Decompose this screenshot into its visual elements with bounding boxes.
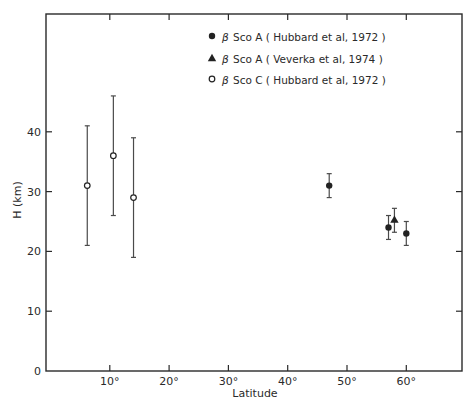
series bbox=[326, 174, 409, 246]
y-tick-label: 40 bbox=[27, 126, 41, 139]
filled-circle-marker bbox=[385, 224, 391, 230]
data-point bbox=[131, 138, 137, 258]
legend-label: Sco C ( Hubbard et al, 1972 ) bbox=[233, 74, 386, 86]
filled-triangle-marker bbox=[390, 216, 398, 223]
y-tick-label: 0 bbox=[34, 365, 41, 378]
x-tick-label: 50° bbox=[337, 375, 357, 388]
x-tick-label: 20° bbox=[159, 375, 179, 388]
y-axis-label: H (km) bbox=[11, 181, 24, 218]
filled-circle-marker bbox=[326, 182, 332, 188]
open-circle-marker bbox=[111, 153, 117, 159]
x-tick-label: 60° bbox=[397, 375, 417, 388]
latitude-height-chart: 10°20°30°40°50°60°010203040 Latitude H (… bbox=[0, 0, 474, 408]
open-circle-marker bbox=[131, 195, 137, 201]
data-point bbox=[84, 126, 90, 246]
filled-circle-marker bbox=[403, 230, 409, 236]
data-point bbox=[403, 222, 409, 246]
legend-label: Sco A ( Veverka et al, 1974 ) bbox=[233, 53, 383, 65]
y-tick-label: 30 bbox=[27, 186, 41, 199]
legend-label: Sco A ( Hubbard et al, 1972 ) bbox=[233, 31, 386, 43]
plot-frame bbox=[46, 14, 462, 371]
open-circle-marker bbox=[209, 76, 215, 82]
data-point bbox=[385, 216, 391, 240]
y-tick-label: 20 bbox=[27, 245, 41, 258]
series bbox=[84, 96, 136, 257]
legend-greek-beta: β bbox=[221, 53, 229, 65]
legend-item: βSco C ( Hubbard et al, 1972 ) bbox=[209, 74, 386, 86]
legend-item: βSco A ( Hubbard et al, 1972 ) bbox=[209, 31, 386, 43]
axis-tick-labels: 10°20°30°40°50°60°010203040 bbox=[27, 126, 416, 388]
x-tick-label: 10° bbox=[100, 375, 120, 388]
filled-triangle-marker bbox=[208, 54, 216, 61]
data-point bbox=[326, 174, 332, 198]
filled-circle-marker bbox=[209, 33, 215, 39]
open-circle-marker bbox=[84, 183, 90, 189]
x-tick-label: 40° bbox=[278, 375, 298, 388]
x-axis-label: Latitude bbox=[232, 387, 278, 400]
legend-item: βSco A ( Veverka et al, 1974 ) bbox=[208, 53, 383, 65]
data-point bbox=[111, 96, 117, 216]
data-point bbox=[390, 208, 398, 232]
y-tick-label: 10 bbox=[27, 305, 41, 318]
axis-ticks bbox=[46, 14, 462, 371]
legend-greek-beta: β bbox=[221, 31, 229, 43]
data-points bbox=[84, 96, 409, 257]
plot-border bbox=[46, 14, 462, 371]
legend: βSco A ( Hubbard et al, 1972 )βSco A ( V… bbox=[208, 31, 386, 86]
legend-greek-beta: β bbox=[221, 74, 229, 86]
series bbox=[390, 208, 398, 232]
